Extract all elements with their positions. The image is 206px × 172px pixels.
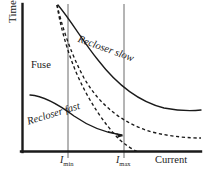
curve-label-fuse: Fuse xyxy=(31,60,51,71)
x-tick-label-imin: Imin xyxy=(60,155,73,168)
y-axis-title: Time xyxy=(7,0,18,32)
plot-canvas xyxy=(0,0,206,172)
time-current-coordination-figure: Time Current Imin Imax Fuse Recloser slo… xyxy=(0,0,206,172)
x-axis-title: Current xyxy=(155,155,187,166)
curve-fuse-total-clear xyxy=(57,5,201,138)
imin-subscript: min xyxy=(63,160,73,167)
imax-subscript: max xyxy=(119,160,130,167)
x-tick-label-imax: Imax xyxy=(116,155,131,168)
curve-fuse-minimum-melt xyxy=(57,5,138,152)
